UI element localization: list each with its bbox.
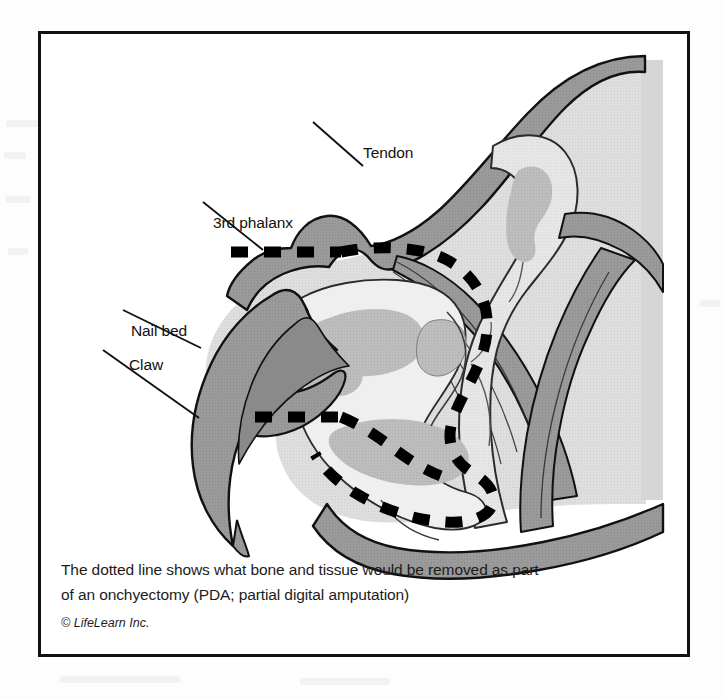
page-speckle [60, 676, 180, 683]
page-speckle [700, 300, 720, 307]
caption-line-2: of an onchyectomy (PDA; partial digital … [61, 582, 661, 607]
leader-line-tendon [313, 122, 363, 166]
caption-line-1: The dotted line shows what bone and tiss… [61, 557, 661, 582]
label-tendon: Tendon [363, 144, 413, 162]
copyright-notice: © LifeLearn Inc. [61, 612, 661, 634]
figure-root: Tendon 3rd phalanx Nail bed Claw The dot… [0, 0, 724, 699]
page-speckle [300, 678, 390, 685]
page-speckle [4, 152, 26, 159]
page-speckle [5, 196, 31, 203]
figure-frame: Tendon 3rd phalanx Nail bed Claw The dot… [38, 31, 690, 657]
figure-caption: The dotted line shows what bone and tiss… [61, 557, 661, 634]
claw-tip [233, 520, 249, 557]
page-speckle [8, 248, 28, 255]
label-claw: Claw [129, 356, 163, 374]
label-third-phalanx: 3rd phalanx [213, 214, 293, 232]
label-nail-bed: Nail bed [131, 322, 187, 340]
